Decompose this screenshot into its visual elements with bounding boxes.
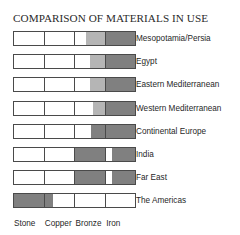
material-cell-bronze bbox=[75, 171, 106, 184]
chart-row-bar bbox=[13, 147, 136, 162]
material-cell-iron bbox=[106, 78, 136, 91]
material-cell-stone bbox=[14, 125, 45, 138]
material-cell-iron bbox=[106, 194, 136, 207]
material-cells bbox=[14, 102, 135, 115]
material-fill bbox=[106, 78, 136, 91]
material-cell-copper bbox=[45, 55, 76, 68]
material-fill bbox=[106, 32, 136, 45]
chart-row-bar bbox=[13, 170, 136, 185]
material-cell-iron bbox=[106, 32, 136, 45]
material-fill bbox=[112, 148, 135, 161]
material-fill bbox=[106, 102, 136, 115]
material-cell-iron bbox=[106, 148, 136, 161]
row-label: Mesopotamia/Persia bbox=[136, 31, 211, 46]
row-label: Egypt bbox=[136, 54, 157, 69]
material-fill bbox=[112, 171, 135, 184]
material-cells bbox=[14, 125, 135, 138]
material-cell-iron bbox=[106, 171, 136, 184]
material-cell-stone bbox=[14, 102, 45, 115]
chart-row-bar bbox=[13, 31, 136, 46]
material-fill bbox=[106, 125, 136, 138]
material-cell-stone bbox=[14, 148, 45, 161]
material-cell-bronze bbox=[75, 102, 106, 115]
chart-row-bar bbox=[13, 124, 136, 139]
row-label: Far East bbox=[136, 170, 167, 185]
row-label: India bbox=[136, 147, 154, 162]
material-cell-copper bbox=[45, 194, 76, 207]
material-cell-bronze bbox=[75, 78, 106, 91]
materials-comparison-chart: COMPARISON OF MATERIALS IN USE StoneCopp… bbox=[0, 0, 240, 235]
material-fill bbox=[86, 32, 104, 45]
material-fill bbox=[91, 125, 104, 138]
x-axis-tick-labels: StoneCopperBronzeIron bbox=[13, 219, 136, 231]
material-cells bbox=[14, 55, 135, 68]
x-tick-copper: Copper bbox=[45, 219, 72, 228]
material-fill bbox=[75, 148, 105, 161]
material-cell-iron bbox=[106, 125, 136, 138]
row-label: The Americas bbox=[136, 193, 186, 208]
material-cell-bronze bbox=[75, 148, 106, 161]
material-cell-copper bbox=[45, 171, 76, 184]
material-cells bbox=[14, 32, 135, 45]
material-cells bbox=[14, 171, 135, 184]
chart-plot-area bbox=[13, 31, 136, 215]
x-tick-bronze: Bronze bbox=[76, 219, 102, 228]
material-cell-iron bbox=[106, 102, 136, 115]
material-cell-bronze bbox=[75, 125, 106, 138]
chart-row-bar bbox=[13, 54, 136, 69]
material-cell-iron bbox=[106, 55, 136, 68]
material-fill bbox=[90, 55, 105, 68]
material-cell-copper bbox=[45, 102, 76, 115]
material-fill bbox=[106, 55, 136, 68]
material-cell-copper bbox=[45, 148, 76, 161]
material-cell-bronze bbox=[75, 32, 106, 45]
material-fill bbox=[90, 78, 105, 91]
material-cell-bronze bbox=[75, 194, 106, 207]
x-tick-iron: Iron bbox=[106, 219, 120, 228]
material-cell-stone bbox=[14, 171, 45, 184]
material-fill bbox=[93, 102, 104, 115]
material-cell-copper bbox=[45, 32, 76, 45]
material-cell-stone bbox=[14, 32, 45, 45]
material-cell-copper bbox=[45, 78, 76, 91]
material-fill bbox=[75, 171, 105, 184]
material-cell-copper bbox=[45, 125, 76, 138]
material-cell-stone bbox=[14, 194, 45, 207]
material-cell-stone bbox=[14, 78, 45, 91]
chart-row-bar bbox=[13, 77, 136, 92]
chart-row-bar bbox=[13, 101, 136, 116]
chart-row-bar bbox=[13, 193, 136, 208]
material-fill bbox=[45, 194, 54, 207]
chart-title: COMPARISON OF MATERIALS IN USE bbox=[13, 12, 208, 24]
row-label: Eastern Mediterranean bbox=[136, 77, 219, 92]
material-cell-stone bbox=[14, 55, 45, 68]
x-tick-stone: Stone bbox=[14, 219, 35, 228]
row-label: Western Mediterranean bbox=[136, 101, 221, 116]
row-label: Continental Europe bbox=[136, 124, 206, 139]
material-cells bbox=[14, 194, 135, 207]
material-fill bbox=[14, 194, 44, 207]
material-cells bbox=[14, 78, 135, 91]
material-cells bbox=[14, 148, 135, 161]
material-cell-bronze bbox=[75, 55, 106, 68]
